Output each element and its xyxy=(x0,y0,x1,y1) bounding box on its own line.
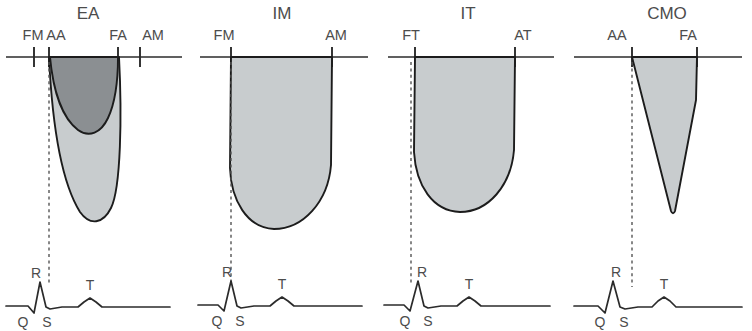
ecg-label-q: Q xyxy=(212,313,223,329)
ecg-label-t: T xyxy=(86,277,95,293)
event-label-fa: FA xyxy=(109,27,127,43)
ecg-label-s: S xyxy=(619,314,628,330)
ecg-label-r: R xyxy=(31,265,41,281)
event-label-ft: FT xyxy=(402,27,420,43)
event-label-aa: AA xyxy=(607,27,627,43)
panel-title: EA xyxy=(77,4,100,23)
ecg-label-r: R xyxy=(222,264,232,280)
ecg-label-r: R xyxy=(417,264,427,280)
doppler-flow-figure: EA FM AA FA AM R T Q S IM FM AM xyxy=(0,0,752,331)
panel-cmo: CMO AA FA R T Q S xyxy=(570,0,752,331)
ecg-label-r: R xyxy=(611,264,621,280)
event-label-fa: FA xyxy=(679,27,697,43)
ecg-label-t: T xyxy=(278,276,287,292)
event-label-aa: AA xyxy=(46,27,66,43)
ecg-label-s: S xyxy=(423,313,432,329)
panel-title: IT xyxy=(460,4,475,23)
panel-ea: EA FM AA FA AM R T Q S xyxy=(0,0,190,331)
ecg-label-s: S xyxy=(42,314,51,330)
ecg-label-t: T xyxy=(465,276,474,292)
panel-im: IM FM AM R T Q S xyxy=(190,0,380,331)
panel-it: IT FT AT R T Q S xyxy=(380,0,570,331)
ecg-trace xyxy=(574,281,742,313)
ecg-label-s: S xyxy=(235,313,244,329)
ecg-label-q: Q xyxy=(18,314,29,330)
event-label-am: AM xyxy=(142,27,164,43)
ecg-label-t: T xyxy=(660,276,669,292)
event-label-am: AM xyxy=(325,27,347,43)
ecg-label-q: Q xyxy=(595,314,606,330)
panel-title: CMO xyxy=(647,4,687,23)
event-label-fm: FM xyxy=(214,27,235,43)
event-label-at: AT xyxy=(514,27,532,43)
event-label-fm: FM xyxy=(23,27,44,43)
ecg-label-q: Q xyxy=(400,313,411,329)
envelope-outer-light xyxy=(414,57,515,212)
envelope-outer-light xyxy=(230,57,332,229)
panel-title: IM xyxy=(273,4,292,23)
envelope-outer-light xyxy=(632,57,697,213)
